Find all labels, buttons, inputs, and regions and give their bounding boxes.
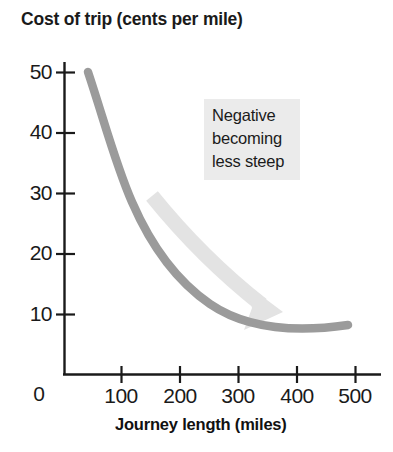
x-tick-label-300: 300 <box>208 384 268 408</box>
annotation-line-1: Negative <box>212 104 300 127</box>
annotation-line-2: becoming <box>212 127 300 150</box>
x-tick-label-200: 200 <box>150 384 210 408</box>
y-tick-label-40: 40 <box>6 120 52 144</box>
y-tick-label-10: 10 <box>6 302 52 326</box>
x-tick-label-400: 400 <box>267 384 327 408</box>
x-tick-label-500: 500 <box>325 384 385 408</box>
origin-label: 0 <box>24 382 54 406</box>
x-axis-title: Journey length (miles) <box>115 415 287 434</box>
y-tick-label-20: 20 <box>6 241 52 265</box>
y-tick-label-30: 30 <box>6 181 52 205</box>
chart-container: Cost of trip (cents per mile) <box>0 0 393 452</box>
annotation-box: Negative becoming less steep <box>204 99 300 180</box>
annotation-line-3: less steep <box>212 150 300 173</box>
y-tick-label-50: 50 <box>6 60 52 84</box>
x-tick-label-100: 100 <box>91 384 151 408</box>
